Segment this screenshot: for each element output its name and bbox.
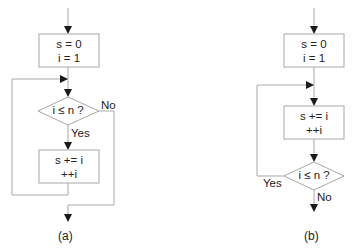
body-box-b-line2: ++i [284, 123, 344, 137]
init-box-b-line2: i = 1 [284, 51, 344, 65]
yes-label-b: Yes [263, 178, 282, 190]
no-label-a: No [101, 100, 116, 112]
body-box-b-text: s += i ++i [284, 109, 344, 137]
body-box-a-line2: ++i [39, 167, 99, 181]
yes-label-a: Yes [71, 128, 90, 140]
condition-b-label: i ≤ n ? [291, 170, 337, 182]
init-box-a-line1: s = 0 [39, 37, 99, 51]
init-box-a-text: s = 0 i = 1 [39, 37, 99, 65]
caption-a: (a) [58, 229, 73, 243]
body-box-b-line1: s += i [284, 109, 344, 123]
init-box-a-line2: i = 1 [39, 51, 99, 65]
init-box-b-line1: s = 0 [284, 37, 344, 51]
body-box-a-line1: s += i [39, 153, 99, 167]
init-box-b-text: s = 0 i = 1 [284, 37, 344, 65]
body-box-a-text: s += i ++i [39, 153, 99, 181]
condition-a-label: i ≤ n ? [45, 105, 91, 117]
no-label-b: No [317, 192, 332, 204]
caption-b: (b) [304, 229, 319, 243]
